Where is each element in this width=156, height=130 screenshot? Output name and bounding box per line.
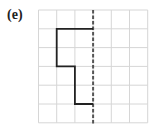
grid-diagram [0,0,156,130]
